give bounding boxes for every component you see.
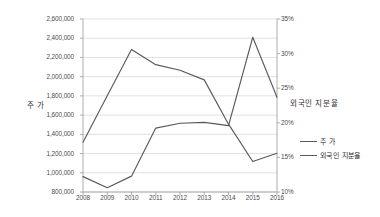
legend-swatch-icon — [300, 141, 317, 142]
y-axis-left-tick-label: 1,000,000 — [34, 169, 74, 176]
y-axis-right-tick-label: 30% — [281, 50, 307, 57]
line-chart: 주 가 외국인 지분율 800,0001,000,0001,200,0001,4… — [0, 0, 380, 217]
y-axis-left-tick-label: 2,000,000 — [34, 73, 74, 80]
x-axis-tick-label: 2011 — [143, 194, 169, 201]
legend-item-label: 주 가 — [320, 136, 335, 146]
legend-item[interactable]: 외국인 지분율 — [300, 148, 361, 162]
x-axis-tick-label: 2014 — [216, 194, 242, 201]
x-axis-tick-label: 2012 — [167, 194, 193, 201]
x-axis-tick-label: 2013 — [191, 194, 217, 201]
x-axis-tick-label: 2015 — [240, 194, 266, 201]
y-axis-left-tick-label: 1,400,000 — [34, 130, 74, 137]
y-axis-left-tick-label: 800,000 — [34, 188, 74, 195]
x-axis-tick-label: 2008 — [70, 194, 96, 201]
series-line-foreign-ownership — [83, 49, 277, 161]
y-axis-left-tick-label: 1,200,000 — [34, 150, 74, 157]
x-axis-tick-label: 2010 — [119, 194, 145, 201]
y-axis-right-title: 외국인 지분율 — [290, 97, 376, 108]
y-axis-left-tick-label: 1,600,000 — [34, 111, 74, 118]
y-axis-left-title: 주 가 — [14, 99, 58, 110]
y-axis-right-tick-label: 25% — [281, 84, 307, 91]
x-axis-tick-label: 2016 — [264, 194, 290, 201]
y-axis-left-tick-label: 2,200,000 — [34, 53, 74, 60]
legend-swatch-icon — [300, 155, 317, 156]
legend-item-label: 외국인 지분율 — [320, 150, 361, 160]
legend-item[interactable]: 주 가 — [300, 134, 361, 148]
plot-area — [83, 19, 277, 192]
plot-svg — [83, 19, 277, 192]
y-axis-left-tick-label: 2,400,000 — [34, 34, 74, 41]
y-axis-right-tick-label: 20% — [281, 119, 307, 126]
x-axis-tick-label: 2009 — [94, 194, 120, 201]
y-axis-right-tick-label: 35% — [281, 15, 307, 22]
series-line-stock-price — [83, 37, 277, 187]
y-axis-left-tick-label: 1,800,000 — [34, 92, 74, 99]
y-axis-left-tick-label: 2,600,000 — [34, 15, 74, 22]
chart-legend: 주 가외국인 지분율 — [300, 134, 361, 162]
